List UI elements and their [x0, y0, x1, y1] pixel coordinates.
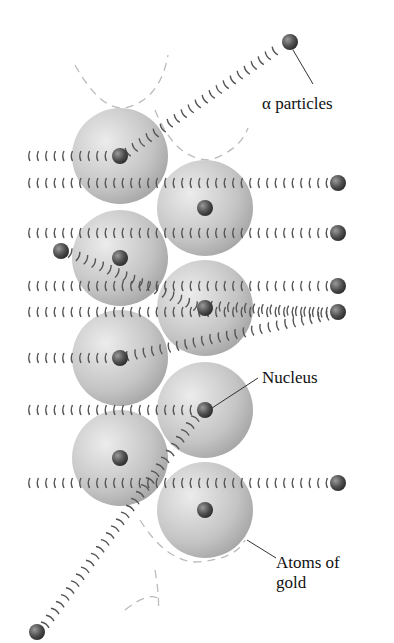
- atoms-of-gold-label-line2: gold: [276, 573, 306, 592]
- alpha-particle: [330, 304, 346, 320]
- gold-foil-diagram: α particles Nucleus Atoms of gold: [0, 0, 394, 643]
- gold-atoms: [72, 108, 253, 558]
- nucleus: [112, 148, 128, 164]
- alpha-particle: [330, 175, 346, 191]
- nucleus: [197, 300, 213, 316]
- atoms-of-gold-label-line1: Atoms of: [276, 553, 340, 572]
- nucleus: [112, 250, 128, 266]
- nucleus: [112, 450, 128, 466]
- alpha-particle: [330, 278, 346, 294]
- alpha-particle: [53, 243, 69, 259]
- alpha-particle: [330, 475, 346, 491]
- nucleus-label: Nucleus: [262, 368, 318, 387]
- diagram-canvas: [0, 0, 394, 643]
- nucleus: [197, 200, 213, 216]
- alpha-particle: [282, 34, 298, 50]
- nucleus: [197, 402, 213, 418]
- alpha-particle: [330, 225, 346, 241]
- nucleus: [197, 502, 213, 518]
- alpha-particle: [29, 624, 45, 640]
- alpha-particles-label: α particles: [262, 94, 333, 113]
- nucleus: [112, 350, 128, 366]
